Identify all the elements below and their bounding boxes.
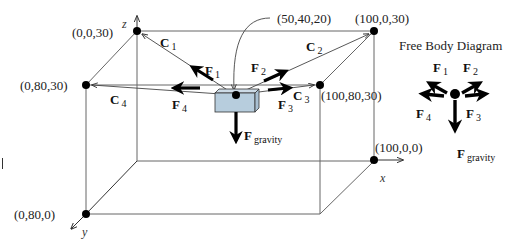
fbd-label-f1: F1 <box>433 61 448 77</box>
point-label-100-0-0: (100,0,0) <box>375 141 423 154</box>
force-f3-arrow <box>268 88 288 90</box>
force-label-f3: F3 <box>278 98 293 114</box>
force-label-gravity: Fgravity <box>244 129 282 145</box>
axis-label-x: x <box>380 172 385 184</box>
force-label-f4: F4 <box>172 98 187 114</box>
force-f2-arrow <box>264 72 284 81</box>
cable-label-c2: C2 <box>306 40 322 56</box>
force-label-f1: F1 <box>205 64 220 80</box>
fbd-label-f2: F2 <box>463 61 478 77</box>
point-label-0-0-30: (0,0,30) <box>72 26 113 39</box>
point-label-0-80-30: (0,80,30) <box>20 79 68 92</box>
force-label-f2: F2 <box>251 61 266 77</box>
bounding-box-wireframe <box>86 31 374 214</box>
cable-label-c4: C4 <box>110 93 126 109</box>
point-label-100-80-30: (100,80,30) <box>321 89 382 102</box>
point-label-100-0-30: (100,0,30) <box>355 12 409 25</box>
cables <box>92 34 369 95</box>
cable-c1 <box>142 34 235 95</box>
axis-label-z: z <box>122 18 127 30</box>
fbd-label-gravity: Fgravity <box>457 147 495 163</box>
fbd-label-f3: F3 <box>466 107 481 123</box>
fbd-label-f4: F4 <box>416 107 431 123</box>
axis-label-y: y <box>82 226 87 238</box>
text-cursor-mark <box>2 158 3 169</box>
points <box>82 27 378 218</box>
y-axis-diagonal <box>86 161 137 214</box>
free-body-title: Free Body Diagram <box>399 39 502 52</box>
cable-label-c3: C3 <box>293 89 309 105</box>
point-label-0-80-0: (0,80,0) <box>14 208 55 221</box>
cable-label-c1: C1 <box>160 36 176 52</box>
point-label-50-40-20: (50,40,20) <box>277 12 331 25</box>
